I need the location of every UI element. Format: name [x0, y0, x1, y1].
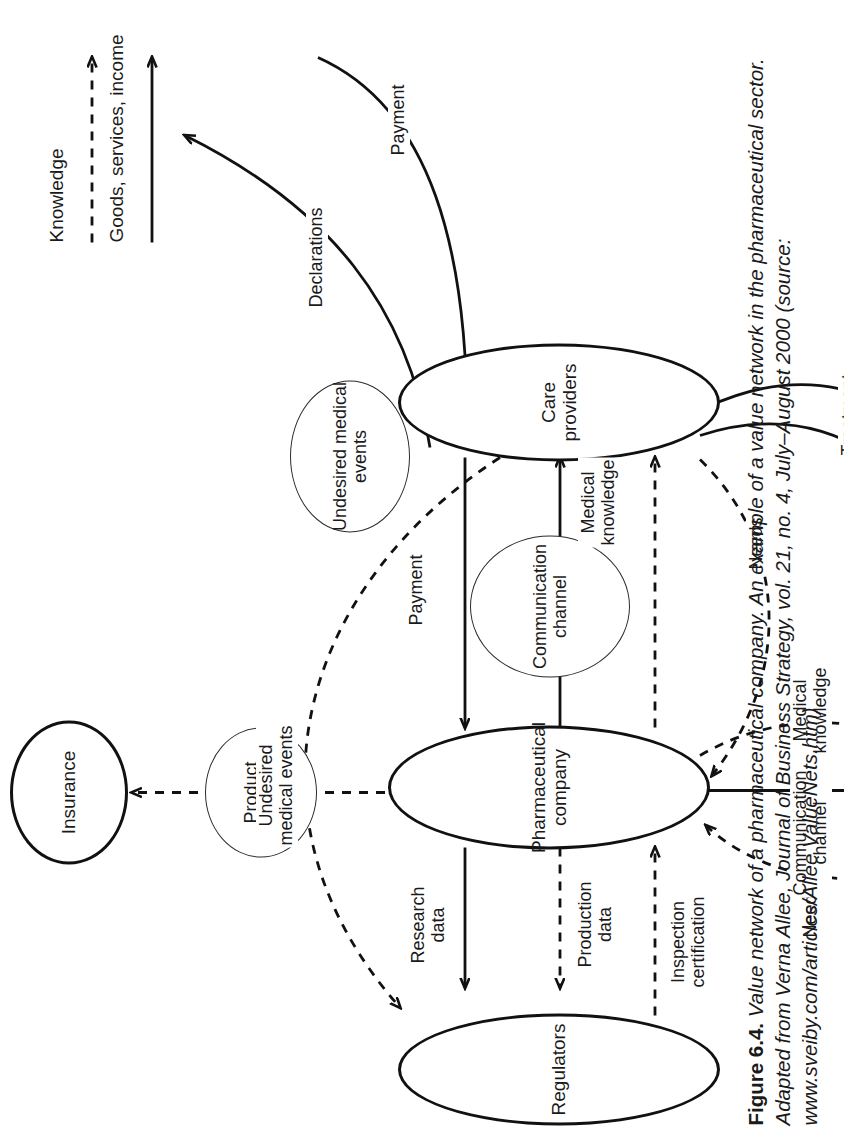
- label-declarations: Declarations: [306, 205, 328, 309]
- figure-caption: Figure 6.4. Value network of a pharmaceu…: [742, 20, 823, 1125]
- label-payment-care-pharma: Payment: [406, 552, 428, 627]
- node-communication-channel[interactable]: Communication channel: [470, 535, 630, 677]
- node-regulators[interactable]: Regulators: [398, 1013, 720, 1125]
- node-undesired-medical-events[interactable]: Undesired medical events: [290, 380, 410, 532]
- label-inspection-certification: Inspection certification: [668, 894, 710, 989]
- node-pharmaceutical-company-label: Pharmaceutical company: [528, 722, 571, 853]
- label-undesired-medical-events-edge: Undesired medical events: [256, 723, 298, 847]
- label-payment-insurance-care: Payment: [388, 82, 410, 157]
- node-communication-channel-label: Communication channel: [530, 536, 570, 676]
- label-treatment: Treatment: [838, 372, 844, 457]
- label-research-data: Research data: [408, 884, 450, 965]
- label-production-data: Production data: [575, 879, 617, 969]
- node-pharmaceutical-company[interactable]: Pharmaceutical company: [388, 725, 710, 849]
- legend-knowledge-label: Knowledge: [46, 148, 68, 242]
- legend-goods-label: Goods, services, income: [106, 34, 128, 242]
- figure-number: Figure 6.4.: [744, 1022, 767, 1125]
- node-insurance[interactable]: Insurance: [10, 720, 128, 864]
- edge-care-regulators-undesired-medical-events: [305, 457, 500, 1007]
- node-regulators-label: Regulators: [548, 1023, 569, 1115]
- node-undesired-medical-events-label: Undesired medical events: [330, 381, 370, 531]
- figure-caption-text: Value network of a pharmaceutical compan…: [744, 58, 821, 1125]
- figure-canvas: Insurance Product information Undesired …: [0, 0, 844, 1147]
- node-care-providers[interactable]: Care providers: [398, 343, 720, 461]
- node-insurance-label: Insurance: [58, 750, 79, 833]
- label-medical-knowledge-care: Medical knowledge: [578, 457, 620, 547]
- node-care-providers-label: Care providers: [538, 346, 581, 458]
